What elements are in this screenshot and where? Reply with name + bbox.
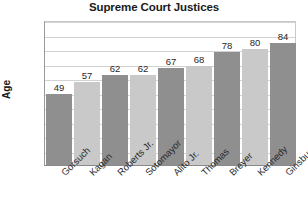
y-axis-title: Age <box>1 66 12 114</box>
bar[interactable] <box>214 52 240 165</box>
bar-slot[interactable]: 57 <box>73 22 101 165</box>
bar[interactable] <box>242 49 268 165</box>
chart-title: Supreme Court Justices <box>0 1 308 13</box>
bar-chart: Supreme Court Justices Age 020406080100 … <box>0 0 308 224</box>
bar-slot[interactable]: 62 <box>101 22 129 165</box>
bar-value-label: 84 <box>263 31 303 42</box>
bar-slot[interactable]: 80 <box>241 22 269 165</box>
bar[interactable] <box>46 94 72 165</box>
bar-slot[interactable]: 49 <box>45 22 73 165</box>
